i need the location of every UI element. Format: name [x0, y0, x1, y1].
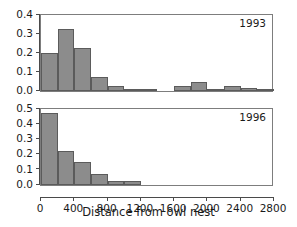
- y-axis-tick-mark: [36, 90, 40, 91]
- y-axis-1996: 0.00.10.20.30.40.5: [0, 97, 40, 194]
- x-axis: 040080012001600200024002800: [40, 197, 273, 198]
- bar: [41, 53, 58, 91]
- y-axis-tick-mark: [36, 52, 40, 53]
- bar: [174, 86, 191, 91]
- x-axis-tick: [173, 197, 174, 201]
- bar: [224, 86, 241, 91]
- plot-area-1993: 1993: [40, 14, 273, 92]
- y-axis-tick-label: 0.3: [16, 28, 36, 39]
- bar: [58, 151, 75, 185]
- bar: [91, 174, 108, 185]
- panel-1993: 1993 0.00.10.20.30.4: [0, 0, 297, 100]
- y-axis-tick-label: 0.2: [16, 47, 36, 58]
- panel-annotation-1993: 1993: [239, 18, 266, 29]
- bar: [207, 89, 224, 91]
- histogram-figure: 1993 0.00.10.20.30.4 1996 0.00.10.20.30.…: [0, 0, 297, 227]
- y-axis-tick-mark: [36, 153, 40, 154]
- y-axis-1993: 0.00.10.20.30.4: [0, 0, 40, 100]
- y-axis-tick-mark: [36, 71, 40, 72]
- y-axis-tick-label: 0.2: [16, 148, 36, 159]
- bar: [141, 89, 158, 91]
- y-axis-tick-mark: [36, 33, 40, 34]
- bar: [108, 181, 125, 185]
- bar-series-1993: [41, 15, 272, 91]
- x-axis-tick: [206, 197, 207, 201]
- x-axis-tick: [140, 197, 141, 201]
- y-axis-line: [39, 108, 40, 184]
- y-axis-tick-label: 0.0: [16, 85, 36, 96]
- bar-series-1996: [41, 109, 272, 185]
- x-axis-tick: [107, 197, 108, 201]
- panel-1996: 1996 0.00.10.20.30.40.5: [0, 97, 297, 197]
- bar: [58, 29, 75, 91]
- y-axis-tick-mark: [36, 138, 40, 139]
- bar: [191, 82, 208, 92]
- y-axis-tick-mark: [36, 14, 40, 15]
- x-axis-tick: [273, 197, 274, 201]
- bar: [41, 113, 58, 185]
- y-axis-tick-mark: [36, 168, 40, 169]
- x-axis-tick: [40, 197, 41, 201]
- x-axis-title: Distance from owl nest: [0, 207, 297, 219]
- y-axis-tick-label: 0.0: [16, 179, 36, 190]
- bar: [74, 48, 91, 91]
- panel-annotation-1996: 1996: [239, 112, 266, 123]
- x-axis-tick: [73, 197, 74, 201]
- y-axis-tick-mark: [36, 108, 40, 109]
- bar: [74, 162, 91, 185]
- y-axis-tick-label: 0.4: [16, 9, 36, 20]
- y-axis-tick-label: 0.3: [16, 133, 36, 144]
- x-axis-tick: [240, 197, 241, 201]
- y-axis-tick-label: 0.4: [16, 118, 36, 129]
- bar: [124, 181, 141, 185]
- y-axis-tick-label: 0.1: [16, 164, 36, 175]
- y-axis-tick-mark: [36, 184, 40, 185]
- bar: [124, 89, 141, 91]
- bar: [91, 77, 108, 91]
- y-axis-tick-mark: [36, 123, 40, 124]
- plot-area-1996: 1996: [40, 108, 273, 186]
- bar: [108, 86, 125, 91]
- bar: [257, 89, 274, 91]
- y-axis-tick-label: 0.1: [16, 66, 36, 77]
- bar: [241, 88, 258, 91]
- y-axis-tick-label: 0.5: [16, 103, 36, 114]
